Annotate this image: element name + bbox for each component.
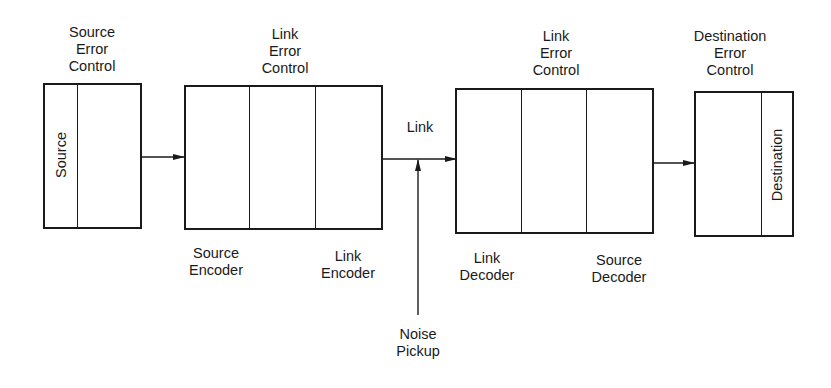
link-decoder-label: Link Decoder: [460, 250, 515, 284]
decoder-divider-2: [586, 90, 587, 232]
link-encoder-label: Link Encoder: [321, 248, 375, 282]
destination-divider: [761, 93, 762, 235]
link-error-control-label-encoder: Link Error Control: [262, 26, 309, 77]
link-error-control-label-decoder: Link Error Control: [533, 28, 580, 79]
encoder-divider-1: [249, 87, 250, 228]
destination-error-control-label: Destination Error Control: [694, 28, 767, 79]
destination-label: Destination: [769, 129, 785, 202]
source-divider: [77, 85, 78, 227]
decoder-block: [455, 88, 654, 234]
link-label: Link: [407, 119, 434, 136]
encoder-divider-2: [315, 87, 316, 228]
source-encoder-label: Source Encoder: [189, 245, 243, 279]
noise-pickup-label: Noise Pickup: [396, 326, 440, 360]
destination-block: Destination: [694, 91, 794, 237]
source-decoder-label: Source Decoder: [592, 252, 647, 286]
encoder-block: [184, 85, 383, 230]
source-label: Source: [53, 132, 69, 178]
source-error-control-label: Source Error Control: [69, 24, 116, 75]
source-block: Source: [43, 83, 142, 229]
decoder-divider-1: [521, 90, 522, 232]
